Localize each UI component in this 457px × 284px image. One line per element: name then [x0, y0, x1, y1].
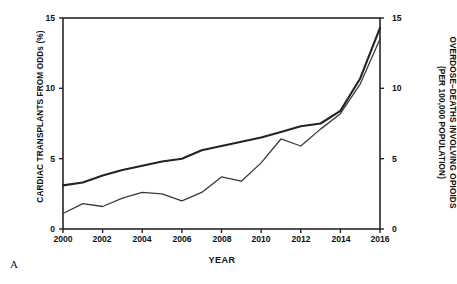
x-tick-label-2010: 2010	[241, 234, 281, 244]
panel-label: A	[10, 258, 18, 270]
x-tick-label-2012: 2012	[281, 234, 321, 244]
x-tick-label-2008: 2008	[202, 234, 242, 244]
y-tick-label-right-5: 5	[392, 154, 414, 164]
data-series-group	[63, 28, 380, 214]
y-axis-right-title: OVERDOSE–DEATHS INVOLVING OPIOIDS (PER 1…	[436, 13, 457, 233]
x-tick-label-2016: 2016	[360, 234, 400, 244]
y-tick-label-left-15: 15	[33, 13, 55, 23]
y-tick-label-right-15: 15	[392, 13, 414, 23]
series-line-1	[63, 39, 380, 213]
x-tick-label-2014: 2014	[321, 234, 361, 244]
x-tick-label-2004: 2004	[122, 234, 162, 244]
series-line-0	[63, 28, 380, 186]
y-axis-right-title-line2: (PER 100,000 POPULATION)	[436, 13, 447, 233]
y-tick-label-left-10: 10	[33, 83, 55, 93]
y-tick-label-left-5: 5	[33, 154, 55, 164]
x-tick-label-2006: 2006	[162, 234, 202, 244]
x-tick-label-2000: 2000	[43, 234, 83, 244]
x-tick-label-2002: 2002	[82, 234, 122, 244]
y-tick-label-right-0: 0	[392, 224, 414, 234]
y-tick-label-left-0: 0	[33, 224, 55, 234]
y-axis-left-title: CARDIAC TRANSPLANTS FROM ODDs (%)	[36, 7, 45, 227]
y-axis-right-title-line1: OVERDOSE–DEATHS INVOLVING OPIOIDS	[446, 13, 457, 233]
axis-frame	[63, 18, 380, 229]
x-axis-title: YEAR	[63, 255, 381, 265]
y-tick-label-right-10: 10	[392, 83, 414, 93]
